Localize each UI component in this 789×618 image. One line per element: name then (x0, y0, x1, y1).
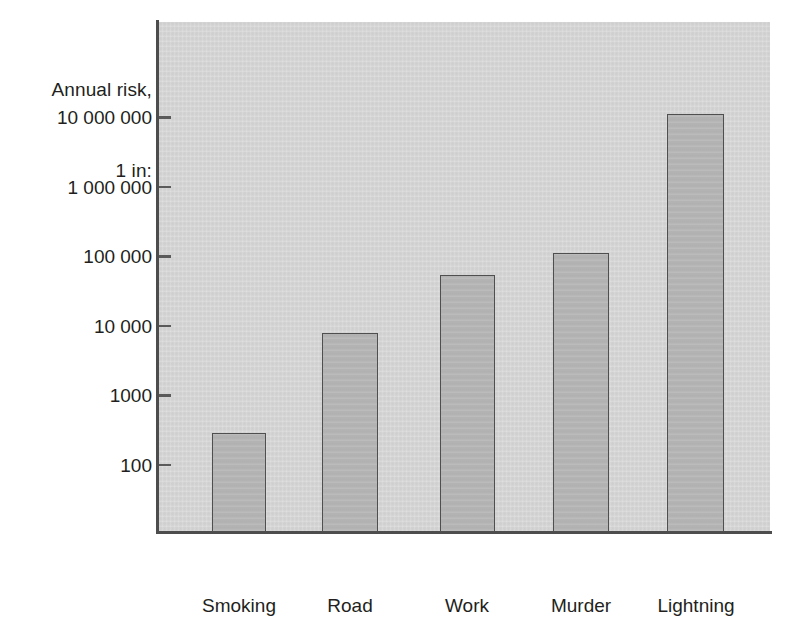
category-label-road-accident: Road accident (290, 541, 410, 618)
category-label-work-line-1: Work (407, 593, 527, 618)
y-tick-mark-10000000 (159, 116, 171, 119)
category-label-smoking-line-1: Smoking (179, 593, 299, 618)
y-tick-label-10000: 10 000 (0, 317, 152, 336)
category-label-road-line-1: Road (290, 593, 410, 618)
y-tick-label-100: 100 (0, 456, 152, 475)
y-axis-line (156, 20, 159, 534)
risk-bar-chart-figure: Annual risk, 1 in: 10 000 000 1 000 000 … (0, 0, 789, 618)
category-label-murder: Murder (521, 541, 641, 618)
bar-work-accident (440, 275, 495, 532)
y-tick-mark-1000 (159, 394, 171, 397)
y-tick-mark-10000 (159, 325, 171, 328)
bar-murder (553, 253, 609, 532)
bar-lightning (667, 114, 724, 532)
y-tick-mark-100 (159, 464, 171, 467)
category-label-lightning: Lightning (635, 541, 757, 618)
y-tick-label-1000000: 1 000 000 (0, 178, 152, 197)
category-label-work-accident: Work accident (407, 541, 527, 618)
y-tick-label-10000000: 10 000 000 (0, 108, 152, 127)
y-tick-mark-100000 (159, 255, 171, 258)
y-tick-label-1000: 1000 (0, 386, 152, 405)
bar-smoking-40-a-day (212, 433, 266, 532)
bar-road-accident (322, 333, 378, 532)
category-label-murder-line-1: Murder (521, 593, 641, 618)
category-label-lightning-line-1: Lightning (635, 593, 757, 618)
category-label-smoking: Smoking 40 a day (179, 541, 299, 618)
chart-axis-title: Annual risk, 1 in: (0, 22, 152, 238)
y-tick-label-100000: 100 000 (0, 247, 152, 266)
axis-title-line-1: Annual risk, (0, 76, 152, 103)
y-tick-mark-1000000 (159, 186, 171, 189)
